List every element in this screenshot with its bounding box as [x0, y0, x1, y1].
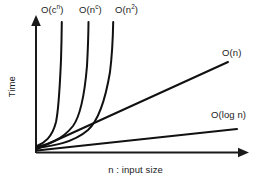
curve-quadratic-n2 — [37, 22, 113, 148]
label-exponential-cn-base: O(c — [41, 4, 57, 15]
x-axis-label: n : input size — [0, 165, 271, 175]
complexity-chart: O(cn) O(nc) O(n2) O(n) O(log n) n : inpu… — [0, 0, 271, 187]
label-polynomial-nc-base: O(n — [79, 4, 95, 15]
label-polynomial-nc: O(nc) — [79, 5, 102, 15]
label-quadratic-n2-close: ) — [135, 4, 138, 15]
label-exponential-cn-close: ) — [60, 4, 63, 15]
chart-canvas — [0, 0, 271, 187]
y-axis-label: Time — [7, 67, 17, 107]
label-polynomial-nc-close: ) — [99, 4, 102, 15]
label-quadratic-n2-base: O(n — [115, 4, 131, 15]
label-exponential-cn: O(cn) — [41, 5, 64, 15]
vertical-axis — [31, 15, 41, 153]
label-quadratic-n2: O(n2) — [115, 5, 138, 15]
curve-exponential-cn — [37, 22, 62, 146]
label-linear-n: O(n) — [222, 48, 241, 58]
y-axis-arrow-head — [31, 15, 41, 26]
line-linear-n — [37, 62, 228, 149]
horizontal-axis — [36, 148, 249, 158]
label-logarithmic-logn: O(log n) — [211, 110, 246, 120]
x-axis-arrow-head — [238, 148, 249, 158]
